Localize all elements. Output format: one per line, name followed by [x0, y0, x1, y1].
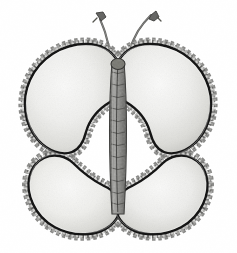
- paper-grain-overlay: [0, 0, 237, 253]
- butterfly-figure: Butterfly Pencil and ink drawing of a sy…: [0, 0, 237, 253]
- butterfly-drawing: [0, 0, 237, 253]
